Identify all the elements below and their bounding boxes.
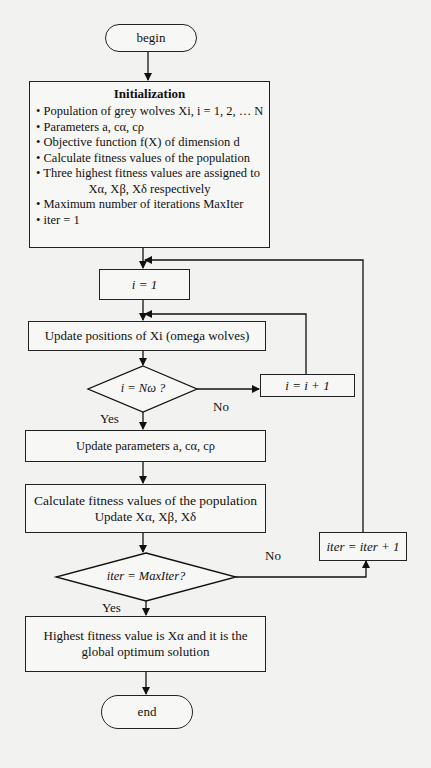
result-line2: global optimum solution (82, 644, 210, 660)
update-parameters-box: Update parameters a, cα, cρ (25, 430, 266, 462)
init-item-parameters: • Parameters a, cα, cρ (36, 120, 263, 136)
i-equals-one-box: i = 1 (99, 269, 190, 300)
init-item-objective: • Objective function f(X) of dimension d (36, 135, 263, 151)
update-parameters-label: Update parameters a, cα, cρ (76, 438, 215, 454)
result-line1: Highest fitness value is Xα and it is th… (44, 628, 248, 644)
iter-increment-box: iter = iter + 1 (319, 532, 407, 561)
init-item-iter-start: • iter = 1 (36, 213, 263, 229)
initialization-title: Initialization (36, 86, 263, 102)
iter-increment-label: iter = iter + 1 (326, 539, 399, 555)
initialization-box: Initialization • Population of grey wolv… (29, 81, 270, 248)
calculate-fitness-line1: Calculate fitness values of the populati… (34, 493, 257, 509)
check-iter-yes-label: Yes (102, 600, 121, 616)
i-equals-one-label: i = 1 (132, 277, 157, 293)
init-item-calc-fitness: • Calculate fitness values of the popula… (36, 151, 263, 167)
init-item-three-highest: • Three highest fitness values are assig… (36, 166, 263, 182)
check-iter-no-label: No (265, 548, 281, 564)
init-item-three-highest-cont: Xα, Xβ, Xδ respectively (36, 182, 263, 198)
update-positions-box: Update positions of Xi (omega wolves) (28, 321, 266, 351)
check-iter-label: iter = MaxIter? (86, 569, 206, 584)
check-i-label: i = Nω ? (98, 381, 188, 396)
end-terminal: end (101, 695, 193, 729)
init-item-population: • Population of grey wolves Xi, i = 1, 2… (36, 104, 263, 120)
i-increment-box: i = i + 1 (260, 374, 355, 397)
begin-terminal: begin (105, 24, 197, 52)
i-increment-label: i = i + 1 (285, 378, 329, 394)
end-label: end (138, 704, 157, 720)
update-positions-label: Update positions of Xi (omega wolves) (45, 328, 250, 344)
begin-label: begin (137, 30, 166, 46)
result-box: Highest fitness value is Xα and it is th… (25, 616, 266, 672)
init-item-max-iter: • Maximum number of iterations MaxIter (36, 197, 263, 213)
edge-check2-no (236, 561, 366, 577)
calculate-fitness-box: Calculate fitness values of the populati… (25, 484, 266, 533)
check-i-no-label: No (213, 399, 229, 415)
calculate-fitness-line2: Update Xα, Xβ, Xδ (95, 509, 197, 525)
check-i-yes-label: Yes (100, 411, 119, 427)
